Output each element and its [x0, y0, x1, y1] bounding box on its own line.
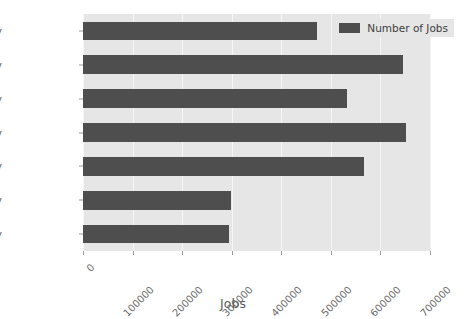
y-tick-label-saturday: Saturday: [0, 194, 2, 206]
x-axis-title: Jobs: [0, 296, 466, 311]
y-tick-mark-wednesday: [79, 98, 83, 99]
bar-row: [83, 55, 431, 74]
bar-monday: [83, 22, 317, 41]
bar-chart-figure: MondayTuesdayWednesdayThursdayFridaySatu…: [0, 0, 466, 319]
y-tick-label-friday: Friday: [0, 160, 2, 172]
bar-wednesday: [83, 89, 347, 108]
y-tick-mark-saturday: [79, 200, 83, 201]
x-tick-mark-7: [430, 251, 431, 255]
x-tick-mark-4: [281, 251, 282, 255]
chart-legend: Number of Jobs: [335, 19, 454, 37]
y-tick-label-wednesday: Wednesday: [0, 93, 2, 105]
bar-thursday: [83, 123, 406, 142]
legend-label-number-of-jobs: Number of Jobs: [367, 22, 448, 34]
y-tick-label-sunday: Sunday: [0, 228, 2, 240]
bar-row: [83, 123, 431, 142]
x-tick-mark-2: [182, 251, 183, 255]
x-tick-mark-0: [83, 251, 84, 255]
x-tick-label-0: 0: [84, 262, 96, 274]
bar-row: [83, 157, 431, 176]
y-tick-mark-sunday: [79, 234, 83, 235]
x-tick-mark-5: [331, 251, 332, 255]
bar-sunday: [83, 225, 229, 244]
plot-area: [83, 14, 431, 251]
x-tick-mark-1: [133, 251, 134, 255]
x-tick-mark-3: [232, 251, 233, 255]
y-tick-mark-thursday: [79, 132, 83, 133]
bar-row: [83, 191, 431, 210]
y-tick-label-tuesday: Tuesday: [0, 59, 2, 71]
bar-friday: [83, 157, 364, 176]
bar-saturday: [83, 191, 231, 210]
y-tick-label-thursday: Thursday: [0, 127, 2, 139]
y-tick-mark-friday: [79, 166, 83, 167]
x-tick-mark-6: [380, 251, 381, 255]
bar-row: [83, 225, 431, 244]
y-tick-label-monday: Monday: [0, 25, 2, 37]
y-tick-mark-tuesday: [79, 64, 83, 65]
y-tick-mark-monday: [79, 30, 83, 31]
bar-tuesday: [83, 55, 403, 74]
bar-row: [83, 89, 431, 108]
legend-swatch-number-of-jobs: [339, 23, 360, 33]
